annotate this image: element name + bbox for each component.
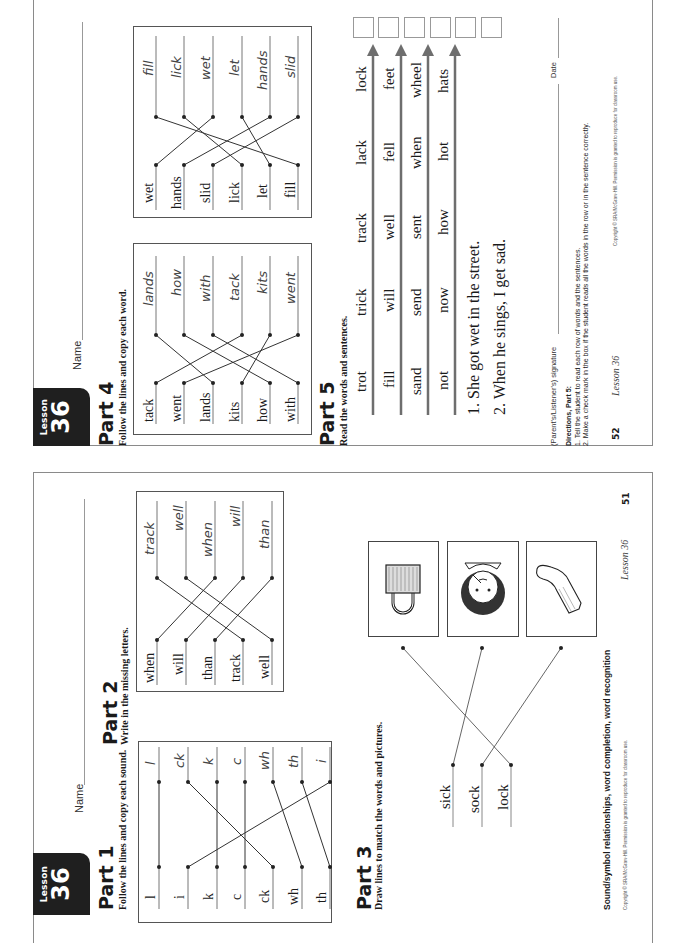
- p5-word: hot: [436, 142, 451, 161]
- check-box-row-1[interactable]: [353, 17, 374, 38]
- p5-word: fill: [382, 371, 397, 389]
- worksheet-page-52: Lesson 36 Name Part 4 Follow the lines a…: [33, 0, 651, 446]
- p5-word: sand: [409, 368, 424, 396]
- p5-word: feet: [382, 68, 397, 90]
- p5-word: how: [436, 209, 451, 235]
- copyright: Copyright © SRA/McGraw-Hill. Permission …: [623, 740, 628, 910]
- worksheet-page-51: Lesson 36 Name Part 1 Follow the lines a…: [33, 473, 651, 943]
- check-box-sentence-1[interactable]: [455, 17, 476, 38]
- check-box-row-2[interactable]: [378, 17, 399, 38]
- page-number: 52: [611, 427, 621, 440]
- p5-word: track: [354, 213, 369, 243]
- copyright: Copyright © SRA/McGraw-Hill. Permission …: [613, 76, 618, 246]
- check-box-row-4[interactable]: [430, 17, 451, 38]
- p5-word: lock: [354, 66, 369, 92]
- check-box-row-3[interactable]: [404, 17, 425, 38]
- p5-word: will: [382, 289, 397, 312]
- directions-line: 1. Tell the student to read each row of …: [574, 123, 583, 446]
- p5-word: wheel: [409, 62, 424, 98]
- p5-word: sent: [409, 215, 424, 239]
- p5-word: when: [409, 137, 424, 170]
- directions: Directions, Part 5: 1. Tell the student …: [565, 123, 591, 446]
- p5-word: lack: [354, 140, 369, 165]
- date-label: Date: [549, 62, 558, 78]
- check-box-sentence-2[interactable]: [481, 17, 502, 38]
- p5-word: now: [436, 287, 451, 313]
- p5-word: trot: [354, 371, 369, 392]
- p5-word: fell: [382, 142, 397, 162]
- p5-word: hats: [436, 69, 451, 93]
- date-line[interactable]: [558, 18, 559, 58]
- p5-word: not: [436, 371, 451, 390]
- p5-word: send: [409, 289, 424, 317]
- footer-lesson: Lesson 36: [610, 356, 621, 396]
- directions-line: 2. Make a check mark in the box if the s…: [582, 123, 591, 446]
- sentence-2: 2. When he sings, I get sad.: [491, 239, 509, 415]
- signature-label: (Parent's/Listener's) signature: [549, 347, 558, 446]
- directions-title: Directions, Part 5:: [565, 123, 574, 446]
- part3-match-lines: [33, 473, 651, 943]
- signature-line[interactable]: [558, 84, 559, 334]
- p5-word: well: [382, 214, 397, 240]
- p5-word: trick: [354, 289, 369, 317]
- footer-lesson: Lesson 36: [619, 540, 630, 580]
- page-number: 51: [621, 492, 631, 505]
- sentence-1: 1. She got wet in the street.: [465, 241, 483, 415]
- skills-footer: Sound/symbol relationships, word complet…: [602, 650, 612, 910]
